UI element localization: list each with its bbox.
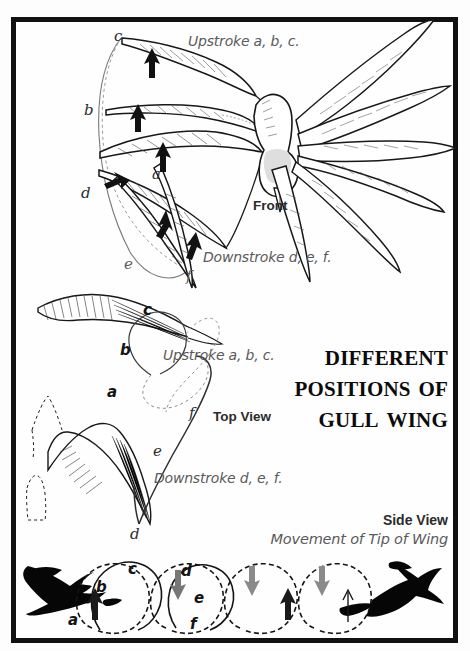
marker-top-f: f: [189, 404, 195, 422]
marker-front-c: c: [114, 27, 122, 45]
marker-side-b: b: [96, 578, 107, 596]
page-frame: [11, 17, 458, 643]
title-line-3: Gull Wing: [248, 402, 448, 433]
marker-side-d: d: [181, 562, 192, 580]
figure-title: Different Positions of Gull Wing: [248, 340, 448, 433]
label-view-front: Front: [253, 198, 288, 213]
marker-top-b: b: [120, 341, 131, 359]
marker-front-b: b: [84, 101, 94, 119]
figure-page: Upstroke a, b, c. Front Downstroke d, e,…: [0, 0, 470, 651]
marker-top-e: e: [153, 442, 162, 460]
label-downstroke-front: Downstroke d, e, f.: [203, 249, 332, 265]
marker-front-e: e: [124, 255, 133, 273]
label-view-side: Side View: [383, 512, 448, 528]
label-upstroke-front: Upstroke a, b, c.: [188, 33, 299, 49]
marker-front-f: f: [186, 267, 192, 285]
marker-side-a: a: [68, 611, 78, 629]
label-movement-of-tip: Movement of Tip of Wing: [271, 531, 448, 547]
marker-side-c: c: [128, 560, 137, 578]
marker-side-f: f: [190, 615, 197, 633]
label-downstroke-top: Downstroke d, e, f.: [154, 470, 283, 486]
marker-side-e: e: [194, 589, 204, 607]
marker-top-c: c: [143, 301, 152, 319]
marker-front-a: a: [152, 165, 161, 183]
marker-top-a: a: [107, 383, 117, 401]
title-line-2: Positions of: [248, 371, 448, 402]
title-line-1: Different: [248, 340, 448, 371]
marker-front-d: d: [81, 184, 91, 202]
marker-top-d: d: [130, 525, 140, 543]
